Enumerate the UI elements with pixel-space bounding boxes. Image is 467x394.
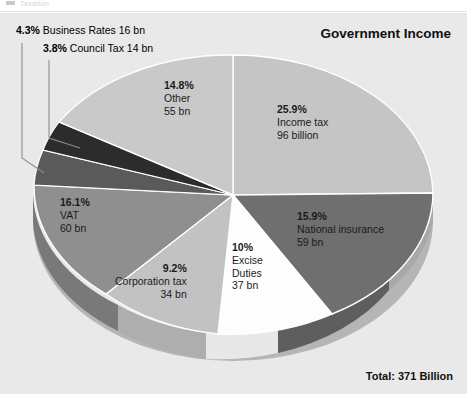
slice-percent-excise-duties: 10% — [232, 241, 263, 254]
slice-percent-vat: 16.1% — [60, 196, 90, 209]
slice-name-corporation-tax: Corporation tax — [115, 275, 187, 288]
slice-amount-national-insurance: 59 bn — [297, 236, 384, 249]
slice-name-vat: VAT — [60, 209, 90, 222]
slice-name-other: Other — [164, 92, 194, 105]
slice-name2-excise-duties: Duties — [232, 267, 263, 280]
header-marker-icon — [6, 1, 15, 5]
slice-amount-excise-duties: 37 bn — [232, 279, 263, 292]
slice-percent-other: 14.8% — [164, 79, 194, 92]
slice-amount-corporation-tax: 34 bn — [115, 288, 187, 301]
slice-label-income-tax: 25.9% Income tax 96 billion — [277, 103, 328, 141]
pie-chart-panel: Government Income 4.3% Business Rates 16… — [0, 13, 467, 394]
slice-name-national-insurance: National insurance — [297, 223, 384, 236]
callout-label-business-rates: 4.3% Business Rates 16 bn — [16, 24, 145, 36]
header-strip-text: Taxation — [20, 0, 49, 7]
callout-text-business-rates: Business Rates 16 bn — [43, 24, 145, 36]
chart-total-label: Total: 371 Billion — [366, 370, 453, 382]
slice-percent-corporation-tax: 9.2% — [115, 262, 187, 275]
callout-text-council-tax: Council Tax 14 bn — [70, 42, 153, 54]
slice-name-income-tax: Income tax — [277, 116, 328, 129]
slice-percent-national-insurance: 15.9% — [297, 210, 384, 223]
slice-label-national-insurance: 15.9% National insurance 59 bn — [297, 210, 384, 248]
slice-percent-income-tax: 25.9% — [277, 103, 328, 116]
slice-amount-other: 55 bn — [164, 105, 194, 118]
header-divider — [0, 11, 467, 12]
slice-name-excise-duties: Excise — [232, 254, 263, 267]
leader-line-business-rates — [22, 43, 44, 173]
slice-amount-income-tax: 96 billion — [277, 129, 328, 142]
chart-title: Government Income — [320, 26, 451, 41]
slice-label-corporation-tax: 9.2% Corporation tax 34 bn — [115, 262, 187, 300]
pie-slice-income-tax — [233, 55, 433, 195]
slice-label-other: 14.8% Other 55 bn — [164, 79, 194, 117]
slice-label-vat: 16.1% VAT 60 bn — [60, 196, 90, 234]
callout-percent-council-tax: 3.8% — [43, 42, 67, 54]
slice-label-excise-duties: 10% Excise Duties 37 bn — [232, 241, 263, 292]
callout-percent-business-rates: 4.3% — [16, 24, 40, 36]
callout-label-council-tax: 3.8% Council Tax 14 bn — [43, 42, 153, 54]
slice-amount-vat: 60 bn — [60, 222, 90, 235]
